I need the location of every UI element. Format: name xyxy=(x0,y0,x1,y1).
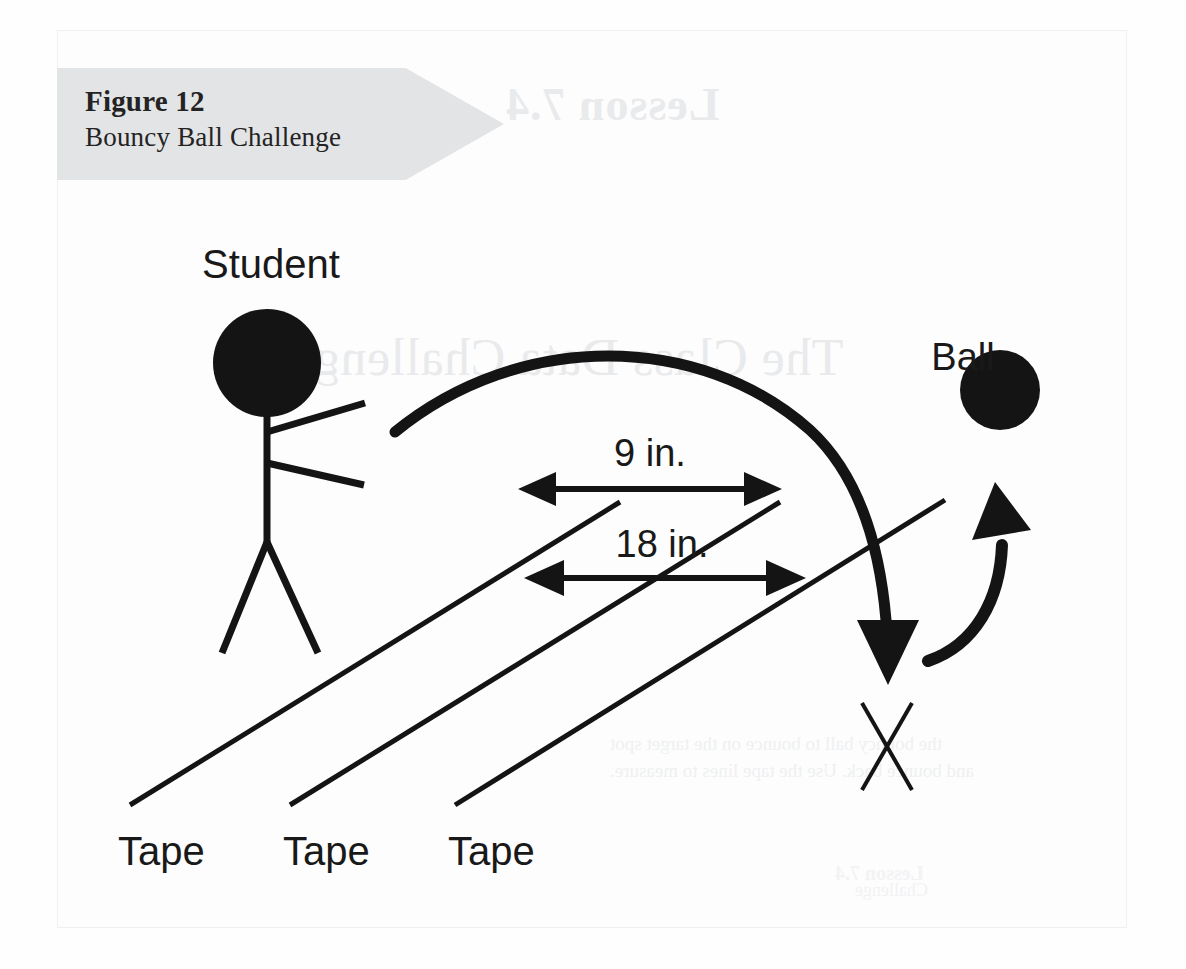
throw-arrowhead-icon xyxy=(857,620,919,685)
dimension-9in-arrowhead-right xyxy=(744,472,782,506)
dimension-9in: 9 in. xyxy=(518,432,782,506)
student-head-icon xyxy=(213,309,321,417)
dimension-9in-arrowhead-left xyxy=(518,472,556,506)
tape-line-1 xyxy=(130,502,620,805)
bouncy-ball-diagram: Student Ball Tape Tape Tape 9 xyxy=(0,0,1186,969)
ball-label: Ball xyxy=(931,336,994,378)
dimension-18in-arrowhead-left xyxy=(524,560,564,596)
student-leg-left xyxy=(222,542,267,653)
scanned-page: Lesson 7.4 The Class Data Challenge the … xyxy=(0,0,1186,969)
student-figure xyxy=(213,309,365,653)
target-x-mark xyxy=(862,703,912,790)
dimension-18in-label: 18 in. xyxy=(616,523,709,565)
student-leg-right xyxy=(267,542,318,653)
tape-lines-group xyxy=(130,500,945,805)
student-label: Student xyxy=(202,242,340,286)
tape-label-3: Tape xyxy=(448,829,535,873)
tape-label-1: Tape xyxy=(118,829,205,873)
tape-label-2: Tape xyxy=(283,829,370,873)
bounce-arrowhead-icon xyxy=(972,482,1031,540)
dimension-9in-label: 9 in. xyxy=(614,432,686,474)
student-arm-lower xyxy=(267,463,364,485)
bounce-trajectory-arc xyxy=(928,545,1002,661)
